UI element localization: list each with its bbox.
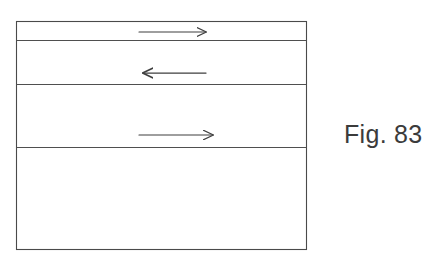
figure-container: Fig. 83 [0, 0, 439, 266]
figure-caption: Fig. 83 [344, 122, 423, 147]
